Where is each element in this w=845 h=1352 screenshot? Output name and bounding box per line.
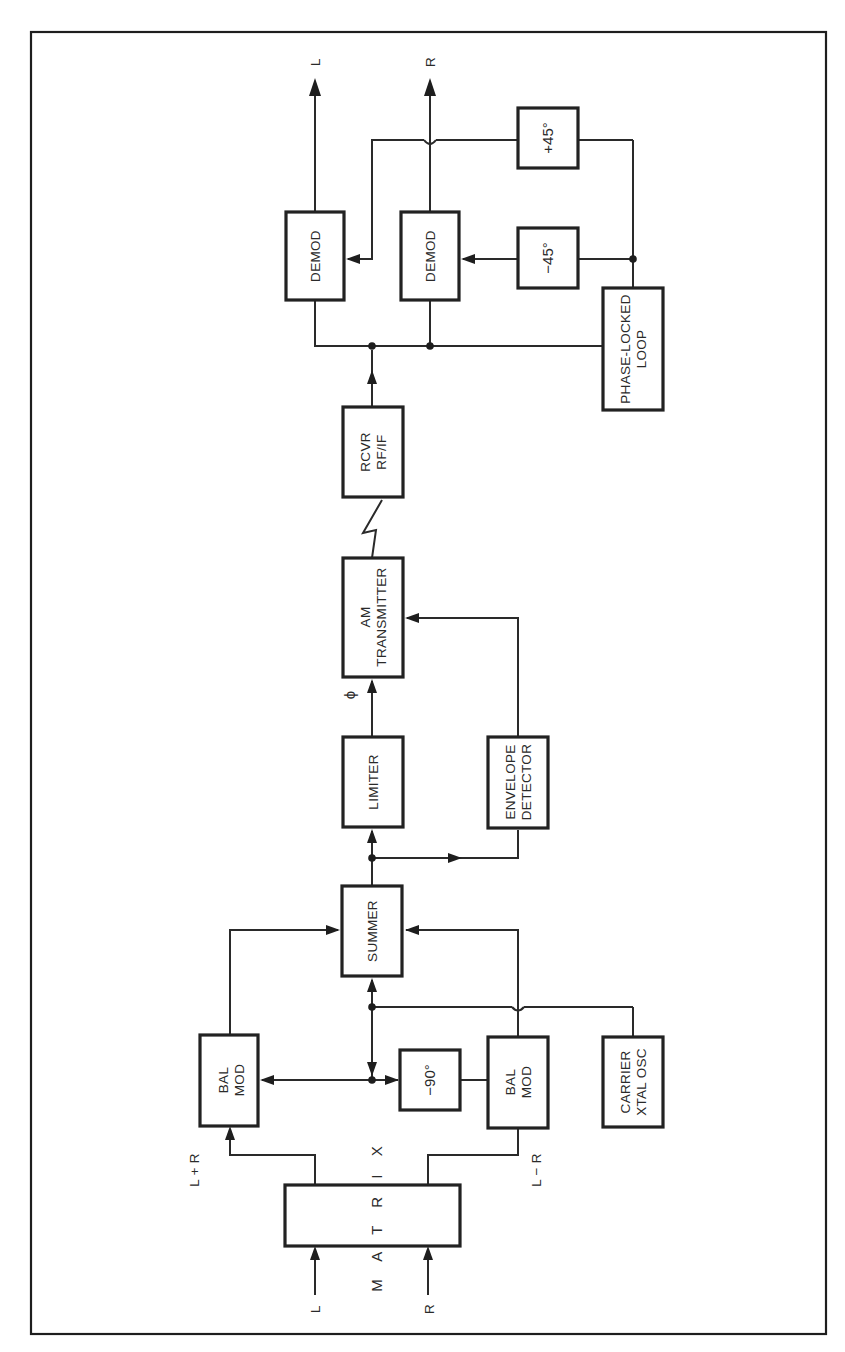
bal-mod-top-line2: MOD [232, 1064, 247, 1096]
phase-shift-minus45-block: −45° [518, 228, 578, 288]
sum-signal-label: L + R [187, 1153, 202, 1187]
carrier-osc-line2: XTAL OSC [634, 1048, 649, 1116]
carrier-xtal-osc-block: CARRIER XTAL OSC [603, 1037, 663, 1127]
output-left-label: L [308, 58, 323, 66]
envelope-detector-block: ENVELOPE DETECTOR [488, 737, 548, 828]
am-transmitter-line2: TRANSMITTER [374, 567, 389, 666]
phase-shift-plus45-block: +45° [518, 108, 578, 168]
bal-mod-top-block: BAL MOD [200, 1035, 258, 1126]
phase-signal-label: ϕ [341, 691, 358, 699]
output-right-label: R [423, 57, 438, 67]
limiter-block: LIMITER [343, 737, 403, 827]
summer-label: SUMMER [365, 900, 380, 962]
phase-locked-loop-block: PHASE-LOCKED LOOP [603, 288, 663, 410]
am-transmitter-line1: AM [358, 607, 373, 628]
input-left-label: L [308, 1305, 323, 1313]
envelope-detector-line2: DETECTOR [519, 744, 534, 820]
phase-plus45-label: +45° [539, 122, 556, 153]
phase-minus45-label: −45° [539, 242, 556, 273]
carrier-osc-line1: CARRIER [618, 1051, 633, 1114]
demod-right-label: DEMOD [423, 230, 438, 282]
demod-right-block: DEMOD [401, 212, 459, 300]
demod-left-label: DEMOD [308, 230, 323, 282]
bal-mod-bottom-block: BAL MOD [488, 1037, 548, 1128]
phase-minus90-label: −90° [421, 1064, 438, 1095]
receiver-rf-if-block: RCVR RF/IF [343, 407, 403, 497]
bal-mod-top-line1: BAL [216, 1067, 231, 1094]
pll-line1: PHASE-LOCKED [618, 294, 633, 403]
receiver-line2: RF/IF [374, 434, 389, 469]
pll-line2: LOOP [634, 330, 649, 369]
matrix-label: M A T R I X [368, 1139, 385, 1291]
junction-dots [368, 255, 637, 1084]
receiver-line1: RCVR [358, 432, 373, 471]
limiter-label: LIMITER [366, 754, 381, 809]
matrix-block: M A T R I X [285, 1139, 460, 1291]
bal-mod-bottom-line2: MOD [519, 1066, 534, 1098]
am-stereo-block-diagram: M A T R I X BAL MOD −90° BAL MOD CARRIER… [0, 0, 845, 1352]
envelope-detector-line1: ENVELOPE [503, 744, 518, 819]
phase-shift-minus90-block: −90° [400, 1050, 460, 1110]
summer-block: SUMMER [342, 886, 402, 976]
demod-left-block: DEMOD [286, 212, 344, 300]
am-transmitter-block: AM TRANSMITTER [343, 558, 403, 677]
bal-mod-bottom-line1: BAL [503, 1069, 518, 1096]
difference-signal-label: L − R [529, 1153, 544, 1187]
input-right-label: R [422, 1304, 437, 1314]
